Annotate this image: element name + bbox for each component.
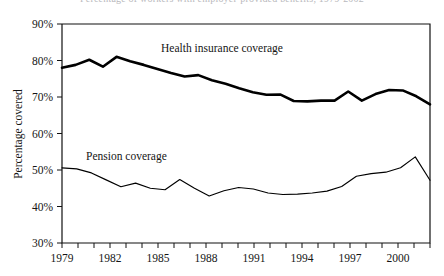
y-axis-title-text: Percentage covered bbox=[12, 89, 25, 179]
series-label-health-insurance-coverage: Health insurance coverage bbox=[161, 42, 283, 55]
x-tick-label: 1997 bbox=[339, 252, 362, 264]
y-axis-ticks bbox=[57, 24, 62, 243]
x-tick-label: 1982 bbox=[99, 252, 122, 264]
series-annotations: Health insurance coverage Pension covera… bbox=[86, 42, 283, 163]
y-tick-label: 30% bbox=[32, 237, 54, 249]
y-tick-label: 50% bbox=[32, 164, 54, 176]
chart-figure: Percentage of workers with employer-prov… bbox=[0, 0, 444, 276]
series-group bbox=[62, 57, 430, 196]
x-axis-tick-labels: 19791982198519881991199419972000 bbox=[51, 252, 410, 264]
x-tick-label: 1994 bbox=[291, 252, 314, 264]
x-tick-label: 1979 bbox=[51, 252, 74, 264]
y-axis-title: Percentage covered bbox=[12, 89, 25, 179]
x-tick-label: 1991 bbox=[243, 252, 266, 264]
y-tick-label: 90% bbox=[32, 18, 54, 30]
y-tick-label: 80% bbox=[32, 55, 54, 67]
series-line-health-insurance-coverage bbox=[62, 57, 430, 104]
series-line-pension-coverage bbox=[62, 157, 430, 196]
x-tick-label: 1985 bbox=[147, 252, 170, 264]
x-tick-label: 2000 bbox=[387, 252, 410, 264]
x-tick-label: 1988 bbox=[195, 252, 218, 264]
x-axis-ticks bbox=[62, 243, 430, 248]
y-axis-tick-labels: 30%40%50%60%70%80%90% bbox=[32, 18, 54, 249]
series-label-pension-coverage: Pension coverage bbox=[86, 150, 167, 163]
y-tick-label: 40% bbox=[32, 201, 54, 213]
y-tick-label: 70% bbox=[32, 91, 54, 103]
y-tick-label: 60% bbox=[32, 128, 54, 140]
line-chart: 30%40%50%60%70%80%90% 197919821985198819… bbox=[0, 0, 444, 276]
